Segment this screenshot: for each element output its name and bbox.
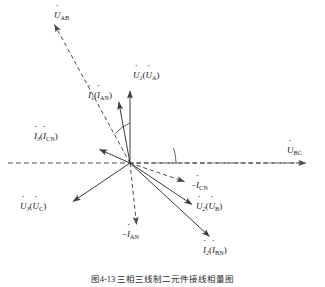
label-uab: UAB <box>54 11 69 20</box>
label-neg-icn: −ICN <box>191 181 208 190</box>
vector-line-neg-icn <box>130 163 185 182</box>
label-neg-icn-subscript: CN <box>199 184 208 191</box>
vector-line-u2-ub <box>130 163 192 205</box>
label-i1-index: 1 <box>91 94 94 101</box>
label-u3-symbol: U <box>20 202 27 211</box>
label-uc-subscript: C <box>39 205 43 212</box>
label-i3-icn: I3(ICN) <box>34 132 58 141</box>
label-ub-subscript: B <box>215 205 219 212</box>
label-ubc: UBC <box>287 146 302 155</box>
label-i2-ibn: I2(IBN) <box>203 246 227 255</box>
label-u3-uc: U3(UC) <box>20 202 46 211</box>
angle-arc-phi2 <box>174 148 177 163</box>
origin-point <box>129 162 131 164</box>
phasor-diagram-figure: UAB U1(UA) I1(IAN) I3(ICN) UBC −ICN U2(U… <box>0 0 325 287</box>
label-uab-symbol: U <box>54 11 61 20</box>
phasor-diagram-canvas <box>0 0 325 287</box>
label-i3-index: 3 <box>37 135 40 142</box>
label-u2-symbol: U <box>196 202 203 211</box>
label-u2-index: 2 <box>203 205 206 212</box>
label-ua-subscript: A <box>152 74 156 81</box>
label-ibn-subscript: BN <box>215 249 224 256</box>
label-ian-subscript: AN <box>100 94 109 101</box>
label-u1-ua: U1(UA) <box>133 71 160 80</box>
label-i1-ian: I1(IAN) <box>88 91 112 100</box>
vector-line-neg-ian <box>130 163 137 225</box>
label-ubc-subscript: BC <box>294 149 302 156</box>
vector-line-i1-ian <box>119 102 130 163</box>
label-ubc-symbol: U <box>287 146 294 155</box>
label-uab-subscript: AB <box>61 14 70 21</box>
label-u1-index: 1 <box>140 74 143 81</box>
vector-line-u3-uc <box>73 163 130 202</box>
label-icn-subscript: CN <box>46 135 55 142</box>
label-neg-ian: −IAN <box>122 230 139 239</box>
figure-caption: 图4-13 三相三线制二元件接线相量图 <box>0 272 325 287</box>
label-i2-index: 2 <box>206 249 209 256</box>
label-neg-ian-subscript: AN <box>130 233 139 240</box>
label-u1-symbol: U <box>133 71 140 80</box>
vector-line-i3-icn <box>100 150 131 164</box>
label-u2-ub: U2(UB) <box>196 202 222 211</box>
label-u3-index: 3 <box>27 205 30 212</box>
